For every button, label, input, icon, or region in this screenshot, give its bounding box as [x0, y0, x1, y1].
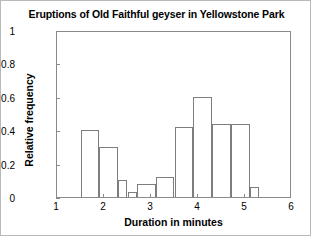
histogram-bar — [175, 127, 194, 197]
y-axis-tick-label: 0.6 — [0, 92, 15, 103]
x-axis-tick-label: 5 — [229, 201, 259, 212]
y-axis-tick-label: 1 — [0, 26, 15, 37]
histogram-bar — [212, 124, 231, 197]
histogram-bar — [193, 97, 212, 197]
histogram-bar — [99, 147, 118, 197]
y-axis-tick-label: 0.4 — [0, 126, 15, 137]
y-axis-tick-label: 0.2 — [0, 159, 15, 170]
histogram-bars — [57, 32, 290, 197]
histogram-bar — [156, 177, 175, 197]
y-axis-tick-label: 0 — [0, 193, 15, 204]
histogram-bar — [81, 130, 100, 197]
y-axis-label: Relative frequency — [23, 45, 35, 195]
histogram-bar — [128, 192, 137, 197]
x-axis-label: Duration in minutes — [56, 216, 291, 228]
x-axis-tick-label: 1 — [41, 201, 71, 212]
histogram-bar — [231, 124, 250, 197]
y-axis-tick-mark — [56, 198, 60, 199]
x-axis-tick-label: 2 — [88, 201, 118, 212]
plot-area — [56, 31, 291, 198]
x-axis-tick-label: 3 — [135, 201, 165, 212]
chart-title: Eruptions of Old Faithful geyser in Yell… — [1, 8, 311, 20]
y-axis-tick-label: 0.8 — [0, 59, 15, 70]
x-axis-tick-label: 6 — [276, 201, 306, 212]
x-axis-tick-label: 4 — [182, 201, 212, 212]
chart-figure: Eruptions of Old Faithful geyser in Yell… — [0, 0, 311, 236]
histogram-bar — [250, 187, 259, 197]
histogram-bar — [118, 180, 127, 197]
histogram-bar — [137, 184, 156, 197]
